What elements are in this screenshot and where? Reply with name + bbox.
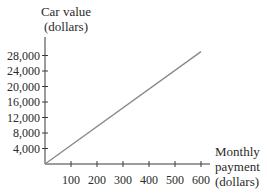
- plot-area: [0, 0, 267, 196]
- data-line: [45, 52, 201, 164]
- tick-marks: [42, 56, 201, 168]
